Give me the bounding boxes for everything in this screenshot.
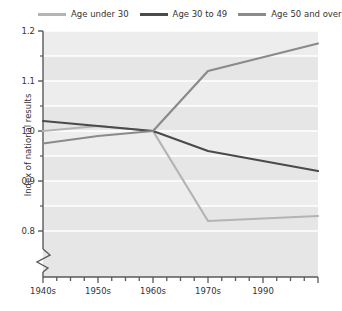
x-tick-label: 1970s bbox=[195, 286, 222, 296]
x-tick-label: 1950s bbox=[85, 286, 112, 296]
x-axis-tick-labels: 1940s1950s1960s1970s1990 bbox=[30, 286, 274, 296]
y-tick-label: 0.9 bbox=[21, 176, 35, 186]
x-axis-ticks bbox=[43, 277, 318, 283]
y-axis-tick-labels: 0.80.91.01.11.2 bbox=[21, 26, 35, 236]
x-tick-label: 1960s bbox=[140, 286, 167, 296]
grid-band bbox=[43, 231, 318, 277]
y-tick-label: 1.2 bbox=[21, 26, 35, 36]
x-tick-label: 1990 bbox=[252, 286, 274, 296]
x-tick-label: 1940s bbox=[30, 286, 57, 296]
y-tick-label: 1.0 bbox=[21, 126, 35, 136]
y-tick-label: 0.8 bbox=[21, 226, 35, 236]
grid-band bbox=[43, 56, 318, 81]
y-tick-label: 1.1 bbox=[21, 76, 35, 86]
